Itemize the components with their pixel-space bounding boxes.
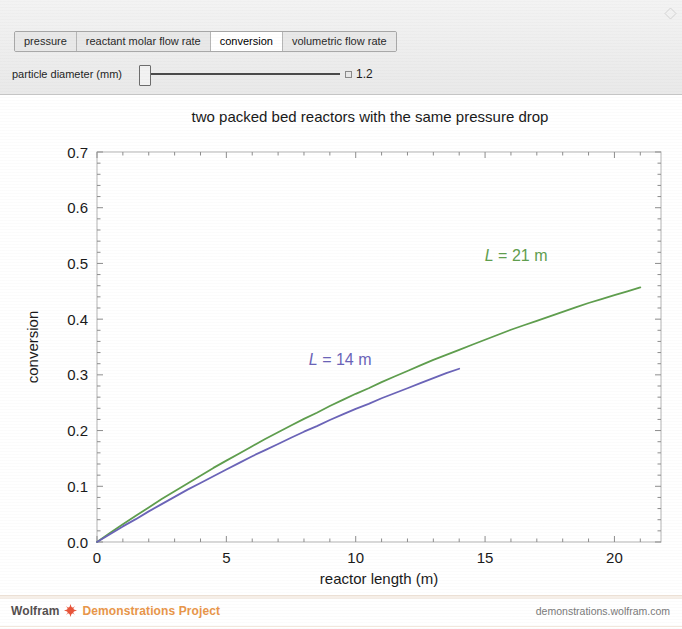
wolfram-spikey-icon (64, 604, 77, 617)
tab-volumetric-flow-rate[interactable]: volumetric flow rate (283, 32, 396, 51)
slider-thumb[interactable] (139, 65, 151, 86)
x-tick-label: 20 (606, 549, 623, 566)
y-tick-label: 0.2 (67, 422, 88, 439)
x-tick-label: 5 (222, 549, 230, 566)
demonstrations-project-wordmark: Demonstrations Project (82, 605, 220, 617)
x-tick-label: 15 (477, 549, 494, 566)
curve-label-L-=-14-m: L = 14 m (309, 351, 372, 368)
tab-conversion[interactable]: conversion (211, 32, 283, 51)
tab-reactant-molar-flow-rate[interactable]: reactant molar flow rate (77, 32, 211, 51)
plot-area: two packed bed reactors with the same pr… (0, 95, 682, 595)
axis-ticks (97, 152, 661, 542)
y-tick-label: 0.0 (67, 534, 88, 551)
tab-pressure[interactable]: pressure (15, 32, 77, 51)
slider-track[interactable] (140, 73, 340, 75)
x-tick-label: 10 (347, 549, 364, 566)
footer-top-rule (0, 596, 682, 599)
particle-diameter-slider[interactable] (132, 64, 344, 84)
slider-end-marker (345, 71, 352, 78)
x-tick-label: 0 (93, 549, 101, 566)
y-tick-label: 0.5 (67, 255, 88, 272)
tab-bar[interactable]: pressurereactant molar flow rateconversi… (14, 31, 397, 52)
demonstration-window: pressurereactant molar flow rateconversi… (0, 0, 682, 629)
particle-diameter-control: particle diameter (mm) 1.2 (12, 64, 373, 84)
curve-L-=-14-m (97, 369, 459, 542)
curve-L-=-21-m (97, 287, 640, 542)
conversion-vs-length-chart: two packed bed reactors with the same pr… (0, 95, 682, 595)
data-curves (97, 287, 640, 542)
wolfram-branding[interactable]: Wolfram Demonstrations Project (11, 604, 220, 617)
expand-corner-icon[interactable] (664, 7, 677, 20)
curve-label-L-=-21-m: L = 21 m (485, 247, 548, 264)
y-tick-label: 0.4 (67, 311, 88, 328)
y-tick-label: 0.7 (67, 144, 88, 161)
y-axis-title: conversion (24, 311, 41, 384)
y-tick-label: 0.1 (67, 478, 88, 495)
curve-annotations: L = 21 mL = 14 m (309, 247, 548, 368)
y-tick-label: 0.6 (67, 199, 88, 216)
wolfram-wordmark: Wolfram (11, 605, 59, 617)
particle-diameter-label: particle diameter (mm) (12, 69, 122, 80)
particle-diameter-value: 1.2 (356, 68, 373, 80)
wolfram-footer: Wolfram Demonstrations Project demonstra… (0, 595, 682, 629)
footer-bottom-rule (0, 626, 682, 627)
chart-title: two packed bed reactors with the same pr… (192, 108, 549, 125)
control-panel: pressurereactant molar flow rateconversi… (0, 0, 682, 95)
y-tick-label: 0.3 (67, 366, 88, 383)
x-axis-title: reactor length (m) (320, 570, 438, 587)
demonstrations-url[interactable]: demonstrations.wolfram.com (536, 606, 670, 617)
plot-frame (97, 152, 661, 542)
